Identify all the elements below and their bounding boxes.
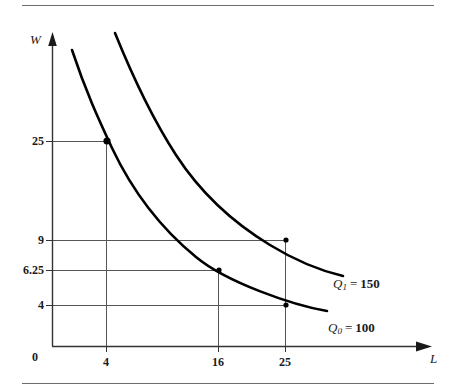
curve-label-q1: Q1=150 [333,277,380,292]
figure-page: W L 0 25 9 6.25 4 4 16 25 Q1=150 Q0=100 [0,0,449,391]
horizontal-gridlines [52,142,285,306]
point-q0-4-25 [103,137,110,144]
y-tick-label-9: 9 [10,234,44,246]
curve-label-q1-value: 150 [360,276,380,291]
point-q0-25-4 [283,302,288,307]
curve-label-q1-equals: = [347,276,360,291]
origin-label: 0 [22,351,38,363]
curve-label-q0-symbol: Q [328,320,337,335]
x-axis-arrowhead [416,342,432,352]
point-q1-25-9 [283,237,288,242]
curve-q0-100 [72,50,327,311]
y-axis-ticks [46,142,52,306]
marked-points [103,137,288,307]
curve-q1-150 [115,33,343,276]
x-axis [52,342,432,352]
curve-label-q0: Q0=100 [328,321,375,336]
vertical-gridlines [107,141,286,346]
curve-label-q0-value: 100 [355,320,375,335]
x-axis-label: L [430,352,437,365]
x-tick-label-4: 4 [92,356,120,368]
x-tick-label-16: 16 [204,356,232,368]
y-axis-label: W [30,33,41,46]
y-tick-label-4: 4 [10,299,44,311]
curve-label-q1-symbol: Q [333,276,342,291]
y-axis-arrowhead [48,32,57,46]
curve-label-q0-equals: = [342,320,355,335]
x-tick-label-25: 25 [271,356,299,368]
y-tick-label-25: 25 [10,135,44,147]
y-axis [48,32,57,346]
y-tick-label-6-25: 6.25 [4,264,44,276]
isoquant-chart [0,0,449,391]
point-q0-16-625 [216,267,221,272]
